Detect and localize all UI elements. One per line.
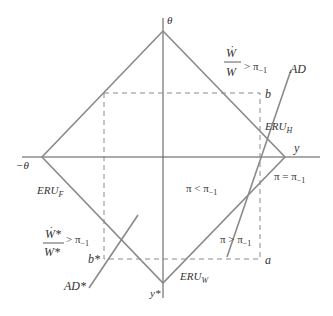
ad-star-label: AD* — [63, 279, 86, 293]
neg-theta-label: −θ — [16, 159, 29, 171]
point-b-star: b* — [88, 252, 100, 266]
ad-line — [227, 70, 291, 257]
eru-w-label: ERUW — [179, 270, 209, 285]
svg-text:> π−1: > π−1 — [244, 60, 267, 75]
eru-h-label: ERUH — [264, 120, 293, 135]
point-a: a — [265, 253, 271, 267]
region-pi-equal: π = π−1 — [274, 170, 305, 185]
region-pi-greater: π > π−1 — [220, 233, 251, 248]
point-b: b — [265, 87, 271, 101]
svg-text:W*: W* — [44, 245, 60, 259]
svg-text:Ẇ: Ẇ — [226, 45, 237, 60]
diagram-canvas: θ y −θ y* AD AD* b b* a ERUH ERUF ERUW π… — [0, 0, 333, 316]
ad-label: AD — [289, 62, 306, 76]
home-wage-condition: Ẇ W > π−1 — [224, 45, 267, 79]
region-pi-less: π < π−1 — [186, 182, 217, 197]
eru-f-label: ERUF — [36, 184, 63, 199]
foreign-wage-condition: Ẇ* W* > π−1 — [43, 226, 89, 259]
svg-text:> π−1: > π−1 — [66, 233, 89, 248]
y-star-label: y* — [149, 287, 161, 299]
theta-label: θ — [167, 14, 173, 26]
svg-text:Ẇ*: Ẇ* — [45, 226, 61, 241]
diagram: θ y −θ y* AD AD* b b* a ERUH ERUF ERUW π… — [0, 0, 333, 316]
y-label: y — [293, 141, 300, 155]
svg-text:W: W — [226, 65, 237, 79]
